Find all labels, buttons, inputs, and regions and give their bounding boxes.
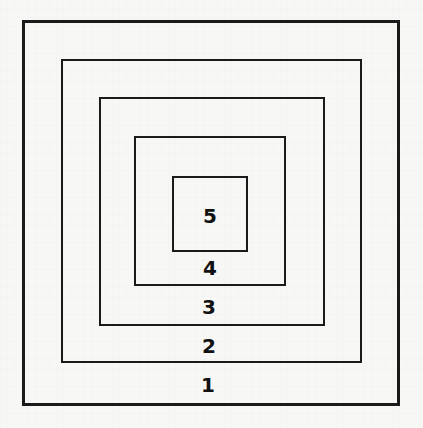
ring-label-4: 4 xyxy=(190,258,230,278)
nested-squares-figure: 5 4 3 2 1 xyxy=(0,0,423,428)
ring-label-2: 2 xyxy=(189,336,229,356)
ring-label-1: 1 xyxy=(188,375,228,395)
ring-label-5: 5 xyxy=(190,206,230,226)
ring-label-3: 3 xyxy=(189,297,229,317)
